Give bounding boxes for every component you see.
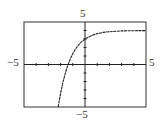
x-max-label: 5 [149,57,155,68]
y-min-label: −5 [76,109,88,120]
axes [24,22,146,107]
x-min-label: −5 [7,57,19,68]
y-max-label: 5 [80,8,86,19]
function-curve [58,31,146,107]
